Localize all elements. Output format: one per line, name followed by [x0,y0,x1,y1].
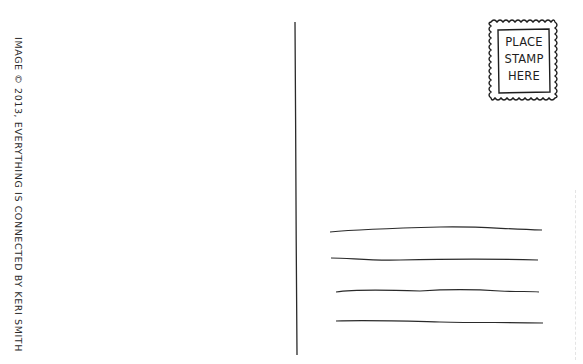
postcard-drawing [0,0,583,364]
address-line-4 [336,321,543,323]
stamp-line-1: PLACE [499,34,549,51]
stamp-label: PLACE STAMP HERE [499,34,549,85]
page-edge [575,190,577,360]
stamp-line-3: HERE [499,68,549,85]
postcard-back: IMAGE © 2013, EVERYTHING IS CONNECTED BY… [0,0,583,364]
center-divider-line [295,22,297,355]
address-line-1 [330,227,542,232]
address-line-2 [331,258,538,260]
address-line-3 [336,290,539,293]
stamp-line-2: STAMP [499,51,549,68]
